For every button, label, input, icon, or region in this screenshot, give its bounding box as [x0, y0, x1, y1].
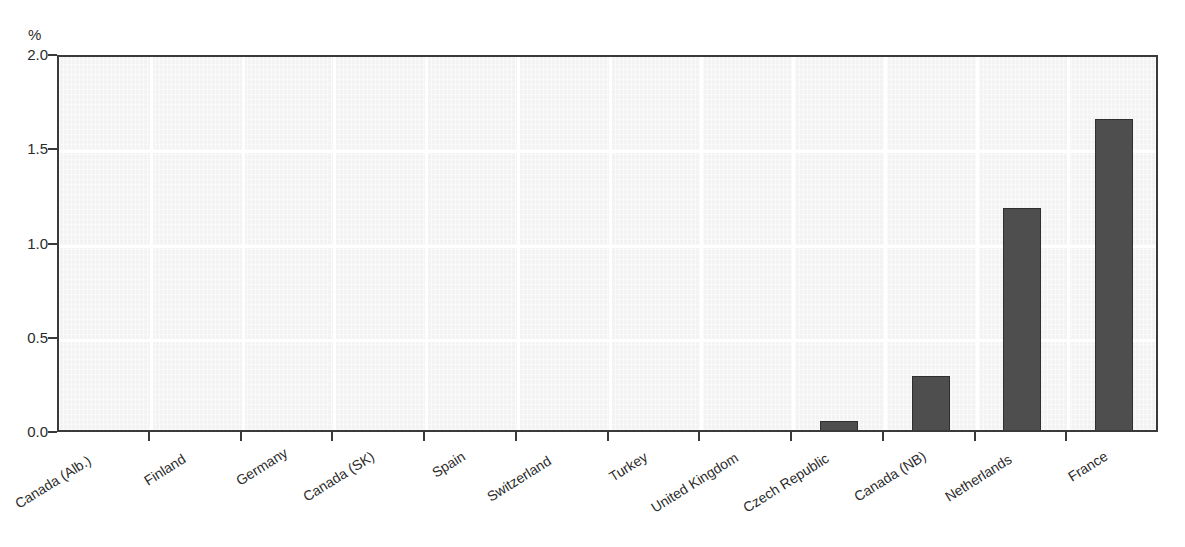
- x-axis-category-label: Canada (Alb.): [12, 453, 94, 512]
- x-axis-category-label: Canada (NB): [851, 447, 929, 504]
- x-axis-category-label: Spain: [429, 448, 468, 481]
- y-axis-tick: [48, 337, 57, 339]
- x-axis-category-label: Switzerland: [484, 452, 554, 504]
- gridline-horizontal: [59, 245, 1156, 248]
- gridline-vertical: [884, 57, 887, 430]
- bar-chart: % 2.01.51.00.50.0Canada (Alb.)FinlandGer…: [0, 0, 1185, 547]
- x-axis-tick: [790, 432, 792, 441]
- x-axis-tick: [331, 432, 333, 441]
- y-axis-tick-label: 1.5: [27, 141, 48, 156]
- gridline-vertical: [150, 57, 153, 430]
- bar: [820, 421, 858, 432]
- plot-area: [57, 55, 1158, 432]
- x-axis-tick: [1065, 432, 1067, 441]
- x-axis-tick: [240, 432, 242, 441]
- x-axis-tick: [882, 432, 884, 441]
- x-axis-tick: [974, 432, 976, 441]
- x-axis-category-label: Turkey: [606, 449, 650, 485]
- y-axis-tick: [48, 54, 57, 56]
- gridline-vertical: [609, 57, 612, 430]
- x-axis-tick: [515, 432, 517, 441]
- plot-texture: [59, 57, 1156, 430]
- x-axis-tick: [698, 432, 700, 441]
- bar: [912, 376, 950, 432]
- x-axis-category-label: United Kingdom: [648, 449, 741, 515]
- bar: [1003, 208, 1041, 432]
- gridline-vertical: [517, 57, 520, 430]
- bar: [1095, 119, 1133, 432]
- gridline-horizontal: [59, 339, 1156, 342]
- y-axis-tick-label: 1.0: [27, 236, 48, 251]
- y-axis-unit-label: %: [28, 26, 42, 43]
- gridline-vertical: [792, 57, 795, 430]
- y-axis-tick: [48, 243, 57, 245]
- y-axis-tick-label: 2.0: [27, 47, 48, 62]
- x-axis-tick: [607, 432, 609, 441]
- x-axis-tick: [423, 432, 425, 441]
- x-axis-category-label: Canada (SK): [300, 448, 377, 504]
- gridline-horizontal: [59, 150, 1156, 153]
- x-axis-category-label: Finland: [141, 451, 188, 489]
- gridline-vertical: [1067, 57, 1070, 430]
- y-axis-tick: [48, 148, 57, 150]
- gridline-vertical: [976, 57, 979, 430]
- x-axis-category-label: France: [1065, 448, 1110, 485]
- x-axis-category-label: Netherlands: [942, 451, 1015, 505]
- gridline-vertical: [425, 57, 428, 430]
- gridline-vertical: [700, 57, 703, 430]
- x-axis-tick: [148, 432, 150, 441]
- gridline-vertical: [242, 57, 245, 430]
- y-axis-tick: [48, 431, 57, 433]
- y-axis-tick-label: 0.0: [27, 424, 48, 439]
- y-axis-tick-label: 0.5: [27, 330, 48, 345]
- x-axis-category-label: Germany: [233, 445, 290, 489]
- gridline-vertical: [333, 57, 336, 430]
- x-axis-category-label: Czech Republic: [740, 450, 832, 516]
